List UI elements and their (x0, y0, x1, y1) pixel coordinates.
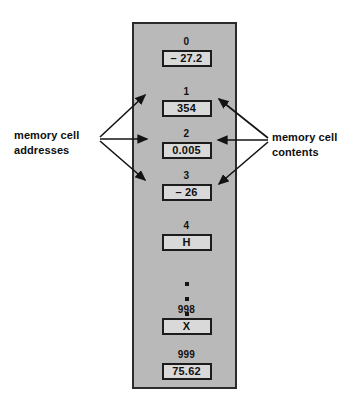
cell-contents-box: – 27.2 (162, 50, 212, 67)
addresses-label-line2: addresses (14, 143, 79, 158)
cell-contents-box: 75.62 (162, 363, 212, 380)
cell-address-label: 999 (134, 349, 239, 361)
cell-contents-box: 0.005 (162, 142, 212, 159)
memory-cell-0: 0 – 27.2 (134, 36, 239, 67)
cell-address-label: 4 (134, 220, 239, 232)
cell-address-label: 0 (134, 36, 239, 48)
cell-address-label: 998 (134, 304, 239, 316)
cell-contents-box: H (162, 234, 212, 251)
cell-address-label: 3 (134, 170, 239, 182)
cell-address-label: 2 (134, 128, 239, 140)
memory-cell-2: 2 0.005 (134, 128, 239, 159)
memory-cell-4: 4 H (134, 220, 239, 251)
memory-panel: 0 – 27.2 1 354 2 0.005 3 – 26 4 H 998 X (132, 22, 237, 389)
memory-cell-contents-label: memory cell contents (272, 130, 337, 160)
contents-label-line2: contents (272, 145, 337, 160)
ellipsis-dot (185, 297, 189, 301)
memory-cell-3: 3 – 26 (134, 170, 239, 201)
cell-contents-box: – 26 (162, 184, 212, 201)
cell-address-label: 1 (134, 86, 239, 98)
cell-contents-box: X (162, 318, 212, 335)
ellipsis-dot (185, 282, 189, 286)
addresses-label-line1: memory cell (14, 128, 79, 143)
memory-cell-999: 999 75.62 (134, 349, 239, 380)
memory-cell-addresses-label: memory cell addresses (14, 128, 79, 158)
contents-label-line1: memory cell (272, 130, 337, 145)
memory-cell-1: 1 354 (134, 86, 239, 117)
memory-cell-998: 998 X (134, 304, 239, 335)
cell-contents-box: 354 (162, 100, 212, 117)
diagram-canvas: 0 – 27.2 1 354 2 0.005 3 – 26 4 H 998 X (0, 0, 356, 412)
